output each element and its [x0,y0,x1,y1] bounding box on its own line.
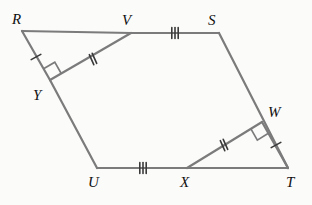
vertex-label-Y: Y [33,88,41,103]
tick-YV-icon [89,53,96,64]
vertex-label-T: T [286,175,294,190]
vertex-label-V: V [122,13,131,28]
vertex-label-U: U [88,175,99,190]
tick-marks-group [31,28,281,174]
right-angle-markers-group [44,62,269,140]
geometry-figure: RVSWTXUY [0,0,312,205]
segment-UY [50,80,97,168]
vertex-label-W: W [268,105,281,120]
vertex-label-R: R [12,12,21,27]
vertex-label-X: X [180,175,189,190]
vertex-label-S: S [208,13,216,28]
segments-group [22,31,288,168]
segment-RV [22,31,131,33]
segment-YR [22,31,50,80]
diagram-canvas [0,0,312,205]
